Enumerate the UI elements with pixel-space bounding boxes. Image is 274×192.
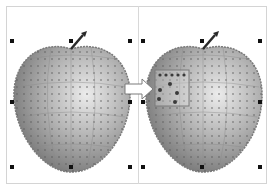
handle-left-bottom-left[interactable]: [10, 165, 14, 169]
handle-right-bottom-left[interactable]: [141, 165, 145, 169]
handle-left-top-right[interactable]: [128, 39, 132, 43]
handle-right-bottom-center[interactable]: [200, 165, 204, 169]
handle-left-bottom-center[interactable]: [69, 165, 73, 169]
handle-right-middle-left[interactable]: [141, 100, 145, 104]
handle-left-middle-left[interactable]: [10, 100, 14, 104]
right-arrow-icon: [124, 78, 154, 100]
vertex-selection-box[interactable]: [155, 70, 189, 106]
handle-left-bottom-right[interactable]: [128, 165, 132, 169]
handle-right-top-center[interactable]: [200, 39, 204, 43]
handle-right-top-left[interactable]: [141, 39, 145, 43]
left-panel: Original mesh: [7, 7, 138, 183]
handle-right-middle-right[interactable]: [258, 100, 262, 104]
apple-mesh-render: [7, 7, 138, 183]
right-panel: Mesh with selected vertex region: [139, 7, 270, 183]
handle-left-top-center[interactable]: [69, 39, 73, 43]
apple-mesh-render-selected: [139, 7, 270, 183]
handle-right-top-right[interactable]: [258, 39, 262, 43]
handle-right-bottom-right[interactable]: [258, 165, 262, 169]
handle-left-middle-right[interactable]: [128, 100, 132, 104]
handle-left-top-left[interactable]: [10, 39, 14, 43]
